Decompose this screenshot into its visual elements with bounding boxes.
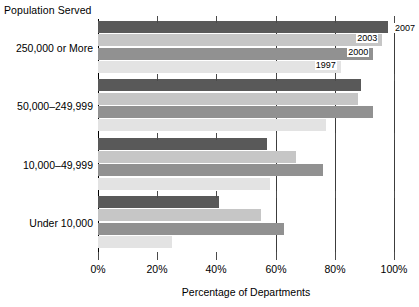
x-tick-40 xyxy=(216,252,217,260)
tick-stub xyxy=(216,191,217,198)
bar-group xyxy=(98,194,394,252)
category-label-1: 50,000–249,999 xyxy=(17,100,93,112)
tick-stub xyxy=(335,74,336,81)
tick-stub xyxy=(276,74,277,81)
x-tick-20 xyxy=(157,252,158,260)
bar-2007-2 xyxy=(98,138,267,150)
bar-2000-0 xyxy=(98,48,373,60)
category-label-0: 250,000 or More xyxy=(16,42,93,54)
tick-stub xyxy=(394,191,395,198)
bar-2000-1 xyxy=(98,106,373,118)
bar-2003-3 xyxy=(98,209,261,221)
bar-2007-3 xyxy=(98,196,219,208)
bar-2007-1 xyxy=(98,79,361,91)
tick-stub xyxy=(394,74,395,81)
tick-stub xyxy=(394,16,395,23)
bar-chart: Population Served 250,000 or More50,000–… xyxy=(0,0,419,307)
bar-2003-2 xyxy=(98,151,296,163)
category-label-2: 10,000–49,999 xyxy=(23,159,93,171)
tick-stub xyxy=(276,191,277,198)
tick-stub xyxy=(216,74,217,81)
x-tick-label-80: 80% xyxy=(324,263,345,275)
bar-2003-0 xyxy=(98,34,382,46)
plot-area: 2007200320001997 xyxy=(98,19,394,252)
category-axis-labels: 250,000 or More50,000–249,99910,000–49,9… xyxy=(0,19,93,252)
x-tick-100 xyxy=(394,252,395,260)
tick-stub xyxy=(216,133,217,140)
x-axis: 0%20%40%60%80%100% xyxy=(98,252,394,264)
x-tick-label-0: 0% xyxy=(90,263,105,275)
tick-stub xyxy=(216,16,217,23)
x-tick-80 xyxy=(335,252,336,260)
tick-stub xyxy=(157,74,158,81)
x-tick-0 xyxy=(98,252,99,260)
tick-stub xyxy=(157,191,158,198)
x-tick-label-60: 60% xyxy=(265,263,286,275)
tick-stub xyxy=(276,16,277,23)
bar-2003-1 xyxy=(98,93,358,105)
x-axis-title: Percentage of Departments xyxy=(98,286,394,298)
bar-2007-0 xyxy=(98,21,388,33)
series-label-1997: 1997 xyxy=(315,60,337,70)
tick-stub xyxy=(335,191,336,198)
bar-group xyxy=(98,77,394,135)
bar-1997-2 xyxy=(98,178,270,190)
series-label-2003: 2003 xyxy=(356,33,378,43)
x-tick-label-40: 40% xyxy=(205,263,226,275)
x-tick-60 xyxy=(276,252,277,260)
series-label-2000: 2000 xyxy=(347,47,369,57)
category-label-3: Under 10,000 xyxy=(29,217,93,229)
tick-stub xyxy=(157,133,158,140)
bar-1997-1 xyxy=(98,119,326,131)
bar-group xyxy=(98,136,394,194)
series-label-2007: 2007 xyxy=(394,23,416,33)
tick-stub xyxy=(276,133,277,140)
y-axis-title: Population Served xyxy=(4,4,92,16)
tick-stub xyxy=(157,16,158,23)
tick-stub xyxy=(335,133,336,140)
tick-stub xyxy=(335,16,336,23)
bar-1997-0 xyxy=(98,61,341,73)
tick-stub xyxy=(394,133,395,140)
x-tick-label-100: 100% xyxy=(381,263,408,275)
bar-1997-3 xyxy=(98,236,172,248)
bar-2000-3 xyxy=(98,223,284,235)
bar-2000-2 xyxy=(98,164,323,176)
x-tick-label-20: 20% xyxy=(146,263,167,275)
